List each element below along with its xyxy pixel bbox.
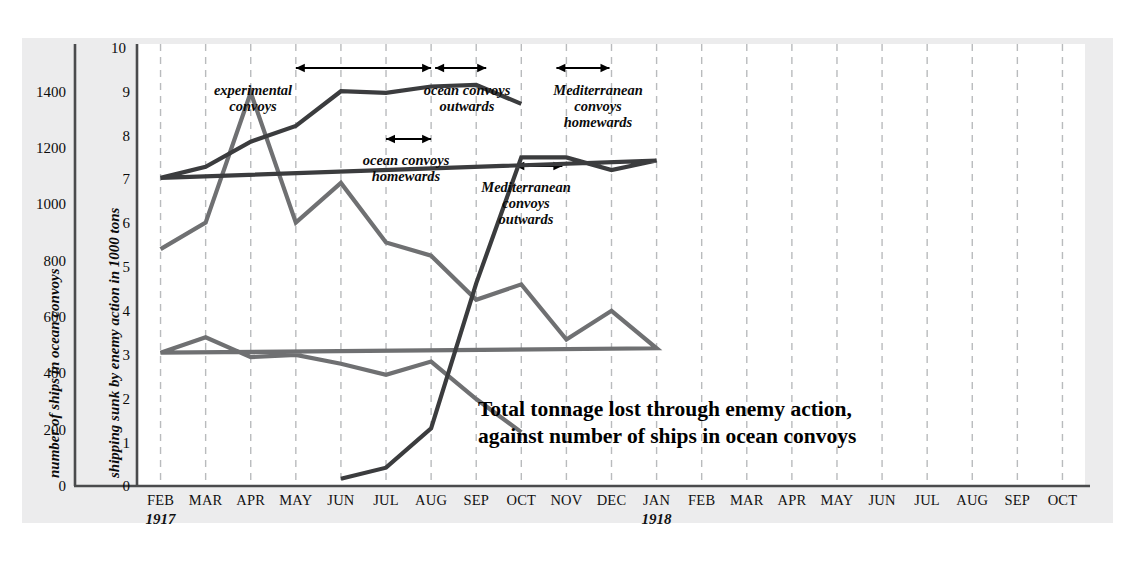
right-tick-7: 7	[108, 172, 130, 187]
right-tick-10: 10	[104, 41, 126, 56]
chart-root: number of ships in ocean convoys shippin…	[0, 0, 1135, 561]
caption-line: Total tonnage lost through enemy action,	[478, 396, 856, 423]
annotation-line: convoys	[178, 98, 328, 114]
year-label-1917: 1917	[131, 511, 191, 528]
right-tick-1: 1	[108, 436, 130, 451]
annotation-line: outwards	[456, 211, 596, 227]
right-tick-4: 4	[108, 304, 130, 319]
year-label-1918: 1918	[627, 511, 687, 528]
annotation-line: outwards	[402, 98, 532, 114]
caption-line: against number of ships in ocean convoys	[478, 423, 856, 450]
annotation-line: ocean convoys	[402, 82, 532, 98]
annotation-ocean-convoys-outwards: ocean convoysoutwards	[402, 82, 532, 114]
left-tick-0: 0	[14, 479, 66, 494]
left-tick-1000: 1000	[14, 197, 66, 212]
right-tick-2: 2	[108, 392, 130, 407]
left-tick-800: 800	[14, 254, 66, 269]
annotation-line: Mediterranean	[528, 82, 668, 98]
annotation-line: ocean convoys	[336, 152, 476, 168]
annotation-ocean-convoys-homewards: ocean convoyshomewards	[336, 152, 476, 184]
chart-caption: Total tonnage lost through enemy action,…	[478, 396, 856, 450]
left-tick-1400: 1400	[14, 85, 66, 100]
left-tick-600: 600	[14, 310, 66, 325]
right-tick-9: 9	[108, 85, 130, 100]
annotation-line: convoys	[528, 98, 668, 114]
annotation-experimental-convoys: experimentalconvoys	[178, 82, 328, 114]
right-tick-0: 0	[108, 479, 130, 494]
left-tick-400: 400	[14, 366, 66, 381]
annotation-line: Mediterranean	[456, 179, 596, 195]
annotation-mediterranean-convoys-outwards: Mediterraneanconvoysoutwards	[456, 179, 596, 228]
left-tick-200: 200	[14, 423, 66, 438]
x-axis-label-20: OCT	[1032, 492, 1092, 509]
annotation-line: homewards	[528, 114, 668, 130]
annotation-line: experimental	[178, 82, 328, 98]
left-tick-1200: 1200	[14, 141, 66, 156]
annotation-line: convoys	[456, 195, 596, 211]
right-tick-8: 8	[108, 129, 130, 144]
annotation-line: homewards	[336, 168, 476, 184]
right-tick-6: 6	[108, 216, 130, 231]
right-tick-5: 5	[108, 260, 130, 275]
annotation-mediterranean-convoys-homewards: Mediterraneanconvoyshomewards	[528, 82, 668, 131]
right-tick-3: 3	[108, 348, 130, 363]
